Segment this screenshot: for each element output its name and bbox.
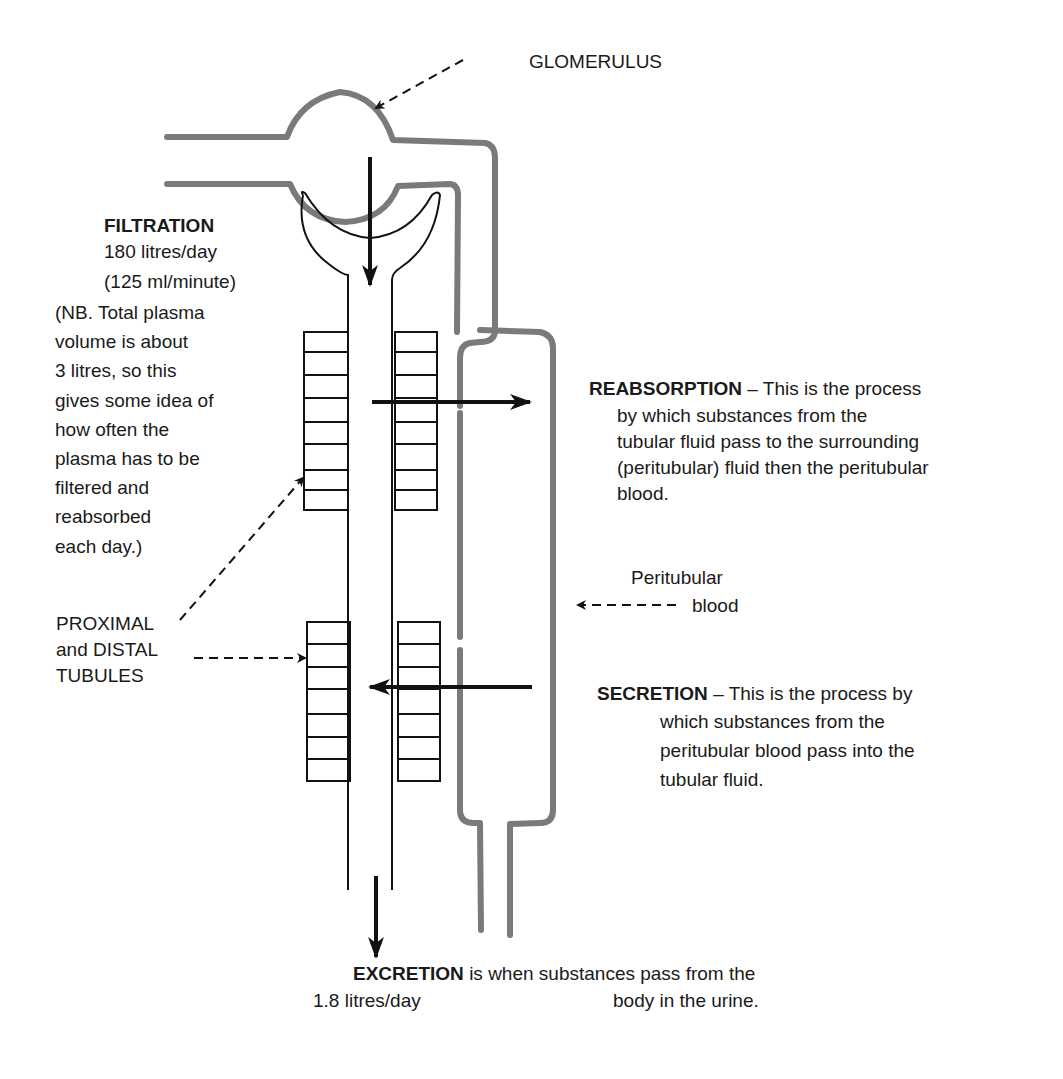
excretion-rate: 1.8 litres/day xyxy=(313,989,421,1014)
filtration-note: (NB. Total plasma volume is about 3 litr… xyxy=(55,298,213,561)
distal-tubule-segments xyxy=(307,622,440,781)
filtration-rate-day: 180 litres/day xyxy=(104,240,217,265)
reabsorption-heading: REABSORPTION – This is the process xyxy=(589,377,921,402)
afferent-efferent-vessels xyxy=(167,92,553,935)
glomerulus-pointer xyxy=(376,60,463,108)
secretion-description: which substances from the peritubular bl… xyxy=(660,707,915,794)
filtration-rate-minute: (125 ml/minute) xyxy=(104,270,236,295)
reabsorption-description: by which substances from the tubular flu… xyxy=(617,403,929,507)
tubules-label: PROXIMAL and DISTAL TUBULES xyxy=(56,611,158,689)
excretion-heading: EXCRETION is when substances pass from t… xyxy=(353,962,755,987)
glomerulus-label: GLOMERULUS xyxy=(529,50,662,75)
bowmans-capsule xyxy=(302,192,440,890)
excretion-line2: body in the urine. xyxy=(613,989,759,1014)
peritubular-label-line1: Peritubular xyxy=(631,566,723,591)
peritubular-label-line2: blood xyxy=(692,594,739,619)
proximal-tubule-segments xyxy=(304,332,437,510)
secretion-heading: SECRETION – This is the process by xyxy=(597,682,912,707)
filtration-title: FILTRATION xyxy=(104,214,214,239)
